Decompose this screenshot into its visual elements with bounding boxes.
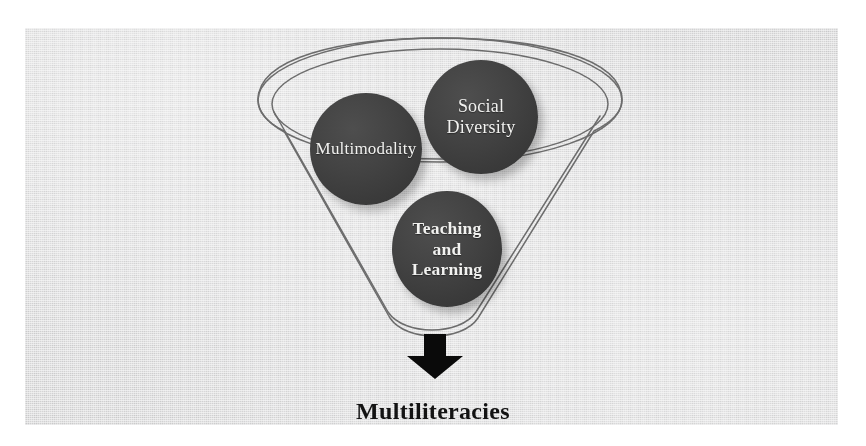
node-teaching-and-learning[interactable]: Teaching and Learning <box>392 191 502 307</box>
node-social-diversity-line-2: Diversity <box>447 117 516 137</box>
node-social-diversity-label: Social Diversity <box>441 96 522 138</box>
node-teaching-line-2: and <box>433 239 462 259</box>
node-multimodality[interactable]: Multimodality <box>310 93 422 205</box>
down-arrow-icon <box>406 334 464 380</box>
figure-canvas: Multimodality Social Diversity Teaching … <box>0 0 866 446</box>
node-social-diversity-line-1: Social <box>458 96 504 116</box>
node-social-diversity[interactable]: Social Diversity <box>424 60 538 174</box>
node-multimodality-label: Multimodality <box>310 139 423 159</box>
outcome-label: Multiliteracies <box>0 398 866 425</box>
node-teaching-line-1: Teaching <box>412 218 481 238</box>
node-teaching-and-learning-label: Teaching and Learning <box>406 218 489 280</box>
node-teaching-line-3: Learning <box>412 259 483 279</box>
